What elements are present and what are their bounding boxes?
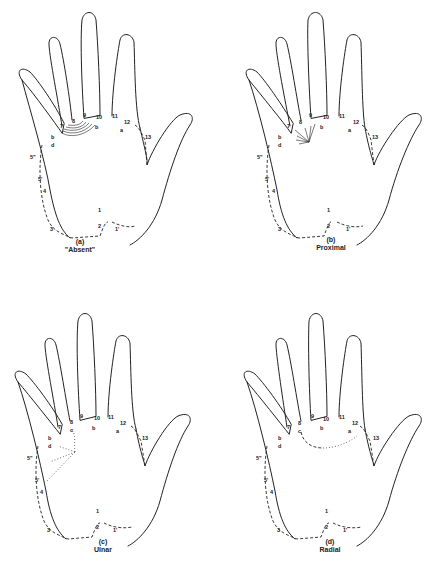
svg-text:12: 12 <box>353 119 359 125</box>
svg-text:9: 9 <box>311 413 314 419</box>
svg-text:a: a <box>348 127 352 133</box>
svg-text:b: b <box>320 124 324 130</box>
crease-lines <box>267 125 374 238</box>
svg-text:5": 5" <box>27 455 33 461</box>
svg-text:8: 8 <box>70 419 73 425</box>
svg-text:1': 1' <box>115 226 120 232</box>
svg-text:11: 11 <box>339 113 345 119</box>
svg-text:2: 2 <box>98 223 101 229</box>
point-labels: 7 9 8 c 10 b 11 12 a 13 b d 5" 5' 4 3 1 … <box>27 413 148 533</box>
hand-diagram-c: 7 9 8 c 10 b 11 12 a 13 b d 5" 5' 4 3 1 … <box>0 284 219 568</box>
svg-text:10: 10 <box>96 114 102 120</box>
svg-text:b: b <box>92 425 96 431</box>
svg-text:d: d <box>48 443 51 449</box>
panel-b-proximal: 7 9 8 10 b 11 12 a 13 b d 5" 5' 4 3 1 2 … <box>219 0 438 284</box>
ridge-hatching <box>62 121 95 136</box>
panel-title: Proximal <box>291 244 371 252</box>
panel-letter: (c) <box>63 538 143 546</box>
svg-text:4: 4 <box>272 188 276 194</box>
svg-text:4: 4 <box>270 489 274 495</box>
svg-text:5": 5" <box>257 154 263 160</box>
svg-text:1': 1' <box>113 527 118 533</box>
svg-text:10: 10 <box>323 114 329 120</box>
svg-text:2: 2 <box>96 524 99 530</box>
svg-text:1: 1 <box>98 207 101 213</box>
svg-text:d: d <box>278 142 281 148</box>
hand-outline <box>246 13 421 246</box>
svg-text:7: 7 <box>60 123 63 129</box>
svg-text:c: c <box>70 427 73 433</box>
panel-caption: (d) Radial <box>290 538 370 554</box>
svg-text:12: 12 <box>352 420 358 426</box>
svg-text:8: 8 <box>298 420 301 426</box>
svg-text:8: 8 <box>299 119 302 125</box>
panel-letter: (d) <box>290 538 370 546</box>
svg-text:13: 13 <box>142 435 148 441</box>
panel-title: "Absent" <box>40 246 120 254</box>
panel-title: Radial <box>290 546 370 554</box>
svg-text:3: 3 <box>278 226 281 232</box>
svg-text:11: 11 <box>108 414 114 420</box>
svg-text:5': 5' <box>265 176 270 182</box>
point-labels: 7 9 8 10 b 11 12 a 13 b d 5" 5' 4 3 1 2 … <box>257 112 378 232</box>
svg-text:5': 5' <box>38 176 43 182</box>
svg-text:5": 5" <box>256 455 262 461</box>
hand-outline <box>244 314 421 547</box>
svg-text:12: 12 <box>120 420 126 426</box>
svg-text:11: 11 <box>339 414 345 420</box>
point-labels: 7 9 8 c 10 b 11 12 a 13 b d 5" 5' 4 3 1 … <box>256 413 379 533</box>
svg-text:b: b <box>48 435 52 441</box>
svg-text:5": 5" <box>30 154 36 160</box>
svg-text:a: a <box>116 428 120 434</box>
panel-d-radial: 7 9 8 c 10 b 11 12 a 13 b d 5" 5' 4 3 1 … <box>219 284 438 568</box>
svg-text:9: 9 <box>80 413 83 419</box>
svg-text:b: b <box>278 435 282 441</box>
panel-caption: (a) "Absent" <box>40 238 120 254</box>
panel-a-absent: 7 9 8 10 b 11 12 a 13 b d 5" 5' 4 3 1 2 … <box>0 0 219 284</box>
svg-text:1': 1' <box>346 226 351 232</box>
svg-text:5': 5' <box>35 477 40 483</box>
svg-text:11: 11 <box>112 113 118 119</box>
svg-text:1': 1' <box>343 527 348 533</box>
svg-text:3: 3 <box>50 226 53 232</box>
svg-text:b: b <box>320 425 324 431</box>
svg-text:12: 12 <box>124 119 130 125</box>
svg-text:3: 3 <box>47 527 50 533</box>
svg-text:b: b <box>95 124 99 130</box>
svg-text:a: a <box>120 127 124 133</box>
svg-text:2: 2 <box>325 524 328 530</box>
svg-text:10: 10 <box>94 415 100 421</box>
crease-lines <box>40 125 147 238</box>
hand-diagram-d: 7 9 8 c 10 b 11 12 a 13 b d 5" 5' 4 3 1 … <box>219 284 438 568</box>
svg-text:13: 13 <box>373 435 379 441</box>
panel-letter: (b) <box>291 236 371 244</box>
svg-text:a: a <box>348 428 352 434</box>
svg-text:b: b <box>51 134 55 140</box>
svg-text:4: 4 <box>40 489 44 495</box>
svg-text:7: 7 <box>287 123 290 129</box>
svg-text:7: 7 <box>287 424 290 430</box>
svg-text:1: 1 <box>325 508 328 514</box>
svg-text:c: c <box>298 428 301 434</box>
panel-caption: (c) Ulnar <box>63 538 143 554</box>
svg-text:3: 3 <box>277 527 280 533</box>
point-labels: 7 9 8 10 b 11 12 a 13 b d 5" 5' 4 3 1 2 … <box>30 112 151 232</box>
svg-text:13: 13 <box>145 134 151 140</box>
ridge-hatching <box>295 124 315 144</box>
panel-c-ulnar: 7 9 8 c 10 b 11 12 a 13 b d 5" 5' 4 3 1 … <box>0 284 219 568</box>
svg-text:13: 13 <box>372 134 378 140</box>
svg-text:1: 1 <box>96 508 99 514</box>
svg-text:b: b <box>278 134 282 140</box>
svg-text:1: 1 <box>327 207 330 213</box>
crease-lines <box>36 426 145 539</box>
svg-text:2: 2 <box>327 223 330 229</box>
panel-title: Ulnar <box>63 546 143 554</box>
svg-text:8: 8 <box>72 118 75 124</box>
svg-text:9: 9 <box>83 112 86 118</box>
svg-text:4: 4 <box>43 188 47 194</box>
svg-text:10: 10 <box>323 416 329 422</box>
panel-caption: (b) Proximal <box>291 236 371 252</box>
panel-letter: (a) <box>40 238 120 246</box>
hand-outline <box>15 314 190 547</box>
svg-text:9: 9 <box>309 112 312 118</box>
